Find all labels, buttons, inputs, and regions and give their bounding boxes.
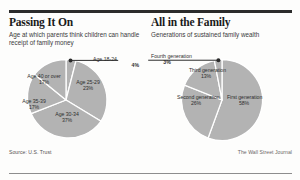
pie-callout-fourth-generation: Fourth generation 3%	[151, 53, 183, 65]
bottom-rule	[9, 173, 292, 174]
page-title-left: Passing It On	[9, 15, 150, 29]
pie-label-third-generation-value: 13%	[189, 73, 223, 79]
pie-label-second-generation-value: 26%	[177, 100, 215, 106]
chart-passing-it-on: Age 40 or over 17% Age 35-39 17% Age 30-…	[9, 51, 150, 151]
pie-callout-age-18-24-value: 4%	[93, 62, 147, 68]
pie-label-first-generation: First generation 58%	[227, 94, 261, 106]
pie-label-age-40-or-over-value: 17%	[23, 79, 65, 85]
pie-label-age-25-29-name: Age 25-29	[76, 79, 100, 85]
pie-label-age-30-34-value: 37%	[49, 117, 85, 123]
top-rule	[9, 10, 292, 13]
pie-label-age-25-29-value: 23%	[71, 85, 105, 91]
subtitle-left: Age at which parents think children can …	[9, 31, 144, 46]
pie-callout-age-18-24: Age 18-24 4%	[93, 56, 147, 68]
pie-label-third-generation-name: Third generation	[189, 67, 226, 73]
pie-label-second-generation-name: Second generation	[177, 94, 220, 100]
pie-label-second-generation: Second generation 26%	[177, 94, 215, 106]
pie-label-first-generation-value: 58%	[227, 100, 261, 106]
publication-credit: The Wall Street Journal	[238, 149, 292, 155]
pie-label-age-35-39: Age 35-39 17%	[16, 98, 52, 110]
page-title-right: All in the Family	[151, 15, 292, 29]
pie-label-age-40-or-over: Age 40 or over 17%	[23, 73, 65, 85]
pie-label-age-25-29: Age 25-29 23%	[71, 79, 105, 91]
chart-all-in-the-family: Fourth generation 3% Third generation 13…	[151, 51, 292, 151]
pie-label-age-40-or-over-name: Age 40 or over	[27, 73, 60, 79]
pie-label-third-generation: Third generation 13%	[189, 67, 223, 79]
pie-label-age-35-39-name: Age 35-39	[22, 98, 46, 104]
pie-label-age-30-34-name: Age 30-34	[55, 111, 79, 117]
infographic-sheet: Passing It On Age at which parents think…	[0, 0, 300, 180]
pie-label-age-30-34: Age 30-34 37%	[49, 111, 85, 123]
source-note: Source: U.S. Trust	[9, 149, 52, 155]
pie-label-first-generation-name: First generation	[227, 94, 262, 100]
panel-all-in-the-family: All in the Family Generations of sustain…	[151, 15, 292, 165]
pie-callout-age-18-24-name: Age 18-24	[93, 56, 117, 62]
panel-passing-it-on: Passing It On Age at which parents think…	[9, 15, 150, 165]
panels-container: Passing It On Age at which parents think…	[9, 15, 292, 165]
pie-callout-fourth-generation-name: Fourth generation	[151, 53, 192, 59]
pie-label-age-35-39-value: 17%	[16, 104, 52, 110]
pie-callout-fourth-generation-value: 3%	[151, 59, 183, 65]
subtitle-right: Generations of sustained family wealth	[151, 31, 286, 39]
